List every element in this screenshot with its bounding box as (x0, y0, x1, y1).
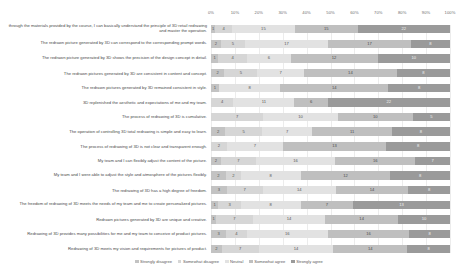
segment-value-label: 7 (244, 188, 246, 192)
segment-value-label: 7 (286, 130, 288, 134)
segment-value-label: 1 (214, 86, 216, 90)
bar-segment: 2 (211, 127, 225, 135)
segment-value-label: 7 (233, 217, 235, 221)
segment-value-label: 4 (221, 100, 223, 104)
segment-value-label: 14 (359, 217, 364, 221)
bar-row: 1461210 (211, 54, 450, 62)
bar-segment: 11 (312, 127, 392, 135)
x-axis-tick: 90% (422, 10, 431, 15)
segment-value-label: 7 (326, 203, 328, 207)
x-axis-tick: 40% (302, 10, 311, 15)
segment-value-label: 15 (261, 27, 266, 31)
legend-item[interactable]: Somewhat disagree (178, 259, 219, 264)
bar-segment: 8 (411, 40, 450, 48)
segment-value-label: 8 (270, 174, 272, 178)
segment-value-label: 14 (287, 217, 292, 221)
segment-value-label: 16 (285, 232, 290, 236)
bar-row: 0710105 (211, 113, 450, 121)
segment-value-label: 14 (294, 247, 299, 251)
bar-segment: 14 (304, 69, 397, 77)
legend-item[interactable]: Neutral (225, 259, 243, 264)
segment-value-label: 14 (370, 188, 375, 192)
likert-stacked-bar-chart: 0%10%20%30%40%50%60%70%80%90%100% throug… (0, 0, 458, 278)
bar-segment: 7 (257, 69, 303, 77)
segment-value-label: 13 (332, 144, 337, 148)
bar-segment: 14 (333, 245, 407, 253)
bar-segment: 10 (378, 54, 450, 62)
x-axis: 0%10%20%30%40%50%60%70%80%90%100% (0, 10, 458, 22)
segment-value-label: 2 (218, 144, 220, 148)
bar-row: 0411622 (211, 98, 450, 106)
question-label: The redrawn picture generated by 3D can … (4, 40, 207, 48)
bar-segment: 7 (211, 113, 263, 121)
segment-value-label: 2 (232, 174, 234, 178)
bar-segment: 7 (222, 245, 259, 253)
legend-item[interactable]: Strongly disagree (135, 259, 172, 264)
question-label: The redrawn pictures generated by 3D are… (4, 69, 207, 77)
segment-value-label: 7 (280, 71, 282, 75)
bar-segment: 14 (325, 215, 398, 223)
segment-value-label: 3 (229, 203, 231, 207)
legend-label: Strongly disagree (140, 259, 172, 264)
bar-segment: 3 (211, 230, 226, 238)
legend-item[interactable]: Somewhat agree (249, 259, 285, 264)
question-label: The process of redrawing of 3D is not cl… (4, 142, 207, 150)
bar-segment: 5 (224, 69, 257, 77)
segment-value-label: 8 (417, 144, 419, 148)
bar-row: 108148 (211, 84, 450, 92)
bar-segment: 14 (280, 84, 388, 92)
legend-item[interactable]: Strongly agree (291, 259, 323, 264)
bar-segment: 7 (216, 215, 252, 223)
bar-segment: 8 (408, 186, 450, 194)
question-label: The redrawn picture generated by 3D show… (4, 54, 207, 62)
bar-segment: 6 (247, 54, 290, 62)
legend-label: Neutral (230, 259, 243, 264)
bar-segment: 8 (407, 245, 449, 253)
legend-swatch-icon (178, 260, 181, 263)
segment-value-label: 14 (368, 247, 373, 251)
segment-value-label: 17 (284, 42, 289, 46)
segment-value-label: 7 (254, 144, 256, 148)
x-axis-tick: 0% (208, 10, 214, 15)
bar-segment: 1 (211, 54, 218, 62)
x-axis-tick: 80% (398, 10, 407, 15)
bar-segment: 13 (283, 142, 387, 150)
bar-row: 2517178 (211, 40, 450, 48)
bar-segment: 8 (386, 142, 450, 150)
bar-row: 2716167 (211, 157, 450, 165)
bar-segment: 7 (415, 157, 450, 165)
segment-value-label: 2 (215, 159, 217, 163)
question-label: The redrawing of 3D has a high degree of… (4, 186, 207, 194)
legend-label: Somewhat agree (254, 259, 285, 264)
bar-segment: 3 (211, 186, 227, 194)
segment-value-label: 14 (348, 71, 353, 75)
bar-segment: 22 (358, 25, 450, 33)
bar-segment: 3 (218, 201, 240, 209)
legend-swatch-icon (225, 260, 228, 263)
bar-segment: 1 (211, 201, 218, 209)
question-label: The redrawn pictures generated by 3D rem… (4, 84, 207, 92)
bar-segment: 13 (353, 201, 450, 209)
segment-value-label: 1 (214, 203, 216, 207)
bar-segment: 16 (335, 157, 415, 165)
segment-value-label: 8 (419, 174, 421, 178)
bar-segment: 2 (226, 171, 241, 179)
segment-value-label: 7 (239, 247, 241, 251)
question-label: The process of redrawing of 3D is cumula… (4, 113, 207, 121)
segment-value-label: 7 (237, 159, 239, 163)
segment-value-label: 5 (242, 130, 244, 134)
plot-area: 1415152225171781461210257148108148041162… (211, 25, 450, 253)
bar-row: 138713 (211, 201, 450, 209)
segment-value-label: 8 (270, 203, 272, 207)
gridline (450, 25, 451, 253)
segment-value-label: 14 (297, 188, 302, 192)
bar-segment: 2 (211, 157, 221, 165)
question-label: Redrawing of 3D provides many possibilit… (4, 230, 207, 238)
segment-value-label: 10 (373, 115, 378, 119)
segment-value-label: 17 (367, 42, 372, 46)
bar-segment: 7 (301, 201, 353, 209)
bar-segment: 10 (338, 113, 413, 121)
bar-segment: 7 (221, 157, 256, 165)
bar-segment: 4 (215, 25, 232, 33)
segment-value-label: 12 (332, 56, 337, 60)
